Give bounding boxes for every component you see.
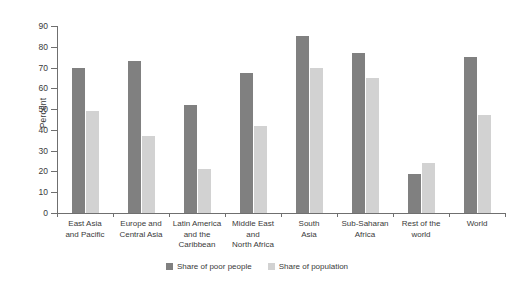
bar [184,105,197,213]
y-axis-tick-label: 10 [39,187,48,197]
bar-group [296,26,323,213]
bar [72,68,85,213]
category-label-line: Middle East [225,219,281,230]
x-axis-tick [113,213,114,217]
x-axis-category-label: Latin Americaand theCaribbean [169,219,225,251]
x-axis-category-label: Middle EastandNorth Africa [225,219,281,251]
x-axis-tick [337,213,338,217]
y-axis-tick-label: 80 [39,42,48,52]
x-axis-tick [505,213,506,217]
bar-group [408,26,435,213]
category-label-line: World [449,219,505,230]
legend-label: Share of poor people [177,262,252,271]
x-axis-category-label: East Asiaand Pacific [57,219,113,240]
bar [464,57,477,213]
bar [408,174,421,213]
y-axis-tick-label: 20 [39,166,48,176]
bar [128,61,141,213]
y-axis-tick-label: 0 [43,208,48,218]
category-label-line: North Africa [225,240,281,251]
legend-swatch-icon [166,263,173,270]
x-axis-tick [449,213,450,217]
bar-group [128,26,155,213]
category-label-line: Asia [281,230,337,241]
bar-chart: Percent 0102030405060708090 East Asiaand… [0,0,514,288]
category-label-line: East Asia [57,219,113,230]
bar [240,73,253,213]
category-label-line: and the [169,230,225,241]
category-label-line: South [281,219,337,230]
bar [310,68,323,213]
bar-group [352,26,379,213]
bar [254,126,267,213]
category-label-line: Africa [337,230,393,241]
bar [198,169,211,213]
legend-item[interactable]: Share of population [268,262,348,271]
category-label-line: Caribbean [169,240,225,251]
bar [296,36,309,213]
category-label-line: Europe and [113,219,169,230]
y-axis-tick-label: 50 [39,104,48,114]
category-label-line: Rest of the [393,219,449,230]
x-axis-category-label: Sub-SaharanAfrica [337,219,393,240]
category-label-line: Central Asia [113,230,169,241]
x-axis-tick [393,213,394,217]
bar [422,163,435,213]
x-axis-category-label: World [449,219,505,230]
y-axis-tick-label: 90 [39,21,48,31]
bar-group [184,26,211,213]
legend-swatch-icon [268,263,275,270]
category-label-line: Latin America [169,219,225,230]
legend-item[interactable]: Share of poor people [166,262,252,271]
y-axis-tick-label: 60 [39,83,48,93]
bar [478,115,491,213]
bar-group [464,26,491,213]
x-axis-tick [225,213,226,217]
bar-group [72,26,99,213]
bar [142,136,155,213]
x-axis-tick [281,213,282,217]
bar [366,78,379,213]
category-label-line: and Pacific [57,230,113,241]
category-label-line: Sub-Saharan [337,219,393,230]
x-axis-tick [169,213,170,217]
y-axis-tick-label: 40 [39,125,48,135]
plot-area [57,26,505,213]
chart-legend: Share of poor peopleShare of population [0,262,514,271]
legend-label: Share of population [279,262,348,271]
x-axis-category-label: Rest of theworld [393,219,449,240]
x-axis-category-label: Europe andCentral Asia [113,219,169,240]
bar [352,53,365,213]
category-label-line: and [225,230,281,241]
x-axis-category-label: SouthAsia [281,219,337,240]
y-axis-tick-label: 70 [39,63,48,73]
category-label-line: world [393,230,449,241]
bar-group [240,26,267,213]
x-axis-tick [57,213,58,217]
bar [86,111,99,213]
y-axis-tick-label: 30 [39,146,48,156]
